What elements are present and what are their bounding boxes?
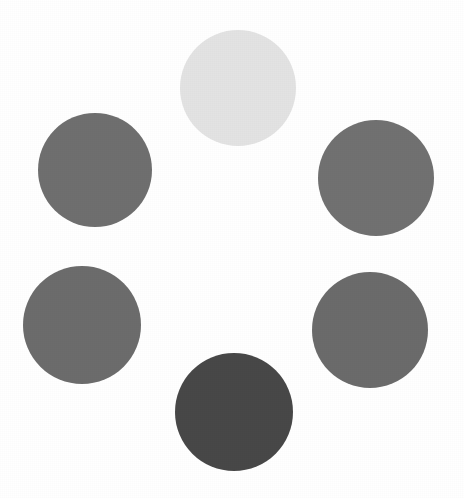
top-right-circle[interactable] — [318, 120, 434, 236]
top-center-circle[interactable] — [180, 30, 296, 146]
bottom-center-circle[interactable] — [175, 353, 293, 471]
top-left-circle[interactable] — [38, 113, 152, 227]
bottom-left-circle[interactable] — [23, 266, 141, 384]
figure-canvas — [0, 0, 464, 498]
bottom-right-circle[interactable] — [312, 272, 428, 388]
